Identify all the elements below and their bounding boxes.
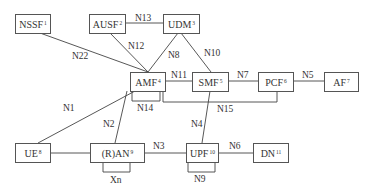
node-label: AUSF (93, 19, 119, 30)
label-xn: Xn (110, 175, 122, 185)
label-n5: N5 (302, 70, 314, 80)
node-smf: SMF5 (192, 72, 229, 92)
node-label: (R)AN (102, 148, 130, 159)
edge-n22 (40, 33, 148, 72)
label-n10: N10 (204, 48, 220, 58)
label-n22: N22 (72, 51, 88, 61)
node-superscript: 7 (347, 78, 350, 84)
label-n6: N6 (229, 141, 241, 151)
node-superscript: 5 (220, 78, 223, 84)
node-label: AMF (135, 77, 157, 88)
node-superscript: 8 (39, 149, 42, 155)
node-amf: AMF4 (130, 72, 166, 92)
node-superscript: 1 (44, 20, 47, 26)
node-label: NSSF (19, 19, 43, 30)
edge-n15 (163, 91, 277, 102)
node-upf: UPF10 (186, 143, 219, 163)
node-superscript: 3 (192, 20, 195, 26)
label-n3: N3 (153, 141, 165, 151)
label-n4: N4 (191, 119, 203, 129)
node-superscript: 9 (131, 149, 134, 155)
node-dn: DN11 (253, 143, 289, 163)
node-label: DN (261, 148, 275, 159)
node-superscript: 2 (119, 20, 122, 26)
edge-xn (103, 162, 130, 172)
edge-n4 (202, 91, 210, 143)
node-superscript: 6 (284, 78, 287, 84)
label-n11: N11 (171, 70, 187, 80)
edge-n1 (38, 91, 135, 143)
node-label: SMF (199, 77, 219, 88)
label-n9: N9 (194, 174, 206, 184)
node-label: UE (24, 148, 37, 159)
node-superscript: 11 (276, 149, 281, 155)
label-n1: N1 (63, 103, 75, 113)
node-udm: UDM3 (163, 14, 200, 34)
node-label: PCF (265, 77, 283, 88)
node-label: AF (333, 77, 346, 88)
label-n13: N13 (135, 13, 151, 23)
node-ausf: AUSF2 (89, 14, 126, 34)
label-n15: N15 (217, 104, 233, 114)
label-n2: N2 (103, 119, 115, 129)
node-superscript: 10 (209, 149, 215, 155)
node-ran: (R)AN9 (90, 143, 145, 163)
label-n12: N12 (128, 41, 144, 51)
edge-n14 (132, 91, 160, 101)
label-n7: N7 (237, 70, 249, 80)
node-nssf: NSSF1 (15, 14, 51, 34)
node-af: AF7 (324, 72, 359, 92)
node-superscript: 4 (158, 78, 161, 84)
node-label: UDM (168, 19, 191, 30)
node-ue: UE8 (15, 143, 51, 163)
label-n8: N8 (168, 50, 180, 60)
label-n14: N14 (137, 103, 153, 113)
node-pcf: PCF6 (258, 72, 294, 92)
node-label: UPF (190, 148, 208, 159)
edge-n9 (188, 162, 215, 172)
edge-n12 (110, 33, 148, 72)
